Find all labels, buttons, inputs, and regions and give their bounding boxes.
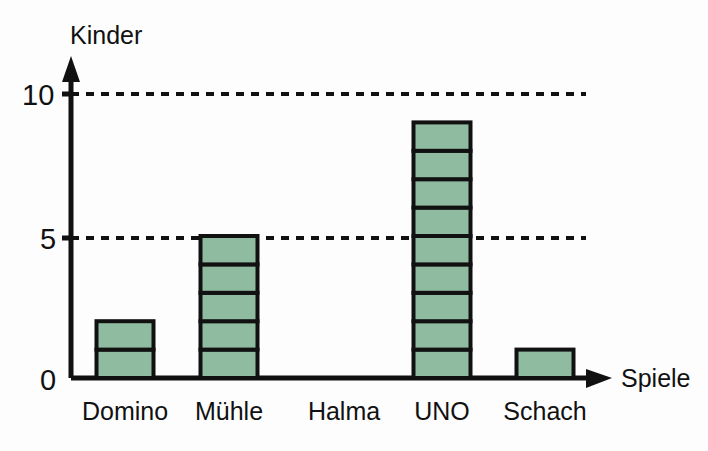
- bar-segment: [201, 350, 258, 378]
- chart-background: [0, 0, 708, 451]
- category-label-domino: Domino: [82, 397, 168, 425]
- bar-chart-figure: Kinder Spiele 10 5 0 Domino Mühle Halma …: [0, 0, 708, 451]
- bar-segment: [517, 350, 574, 378]
- bar-segment: [97, 321, 154, 349]
- bar-segment: [201, 321, 258, 349]
- bar-segment: [414, 264, 471, 292]
- bar-segment: [414, 208, 471, 236]
- y-tick-label-5: 5: [40, 223, 56, 255]
- y-tick-label-10: 10: [22, 79, 54, 111]
- bar-segment: [414, 321, 471, 349]
- category-label-schach: Schach: [503, 397, 586, 425]
- bar-segment: [414, 122, 471, 150]
- bar-schach: [517, 350, 574, 378]
- category-label-uno: UNO: [414, 397, 470, 425]
- y-axis-title: Kinder: [70, 21, 142, 49]
- x-axis-title: Spiele: [621, 364, 691, 392]
- bar-segment: [414, 179, 471, 207]
- bar-segment: [414, 236, 471, 264]
- bar-muehle: [201, 236, 258, 378]
- y-tick-label-0: 0: [40, 364, 56, 396]
- bar-uno: [414, 122, 471, 378]
- bar-segment: [414, 151, 471, 179]
- chart-canvas: Kinder Spiele 10 5 0 Domino Mühle Halma …: [0, 0, 708, 451]
- bar-segment: [414, 293, 471, 321]
- bar-domino: [97, 321, 154, 378]
- bar-segment: [201, 264, 258, 292]
- bar-segment: [414, 350, 471, 378]
- category-label-halma: Halma: [308, 397, 380, 425]
- category-label-muehle: Mühle: [195, 397, 263, 425]
- bar-segment: [201, 293, 258, 321]
- bar-segment: [201, 236, 258, 264]
- bar-segment: [97, 350, 154, 378]
